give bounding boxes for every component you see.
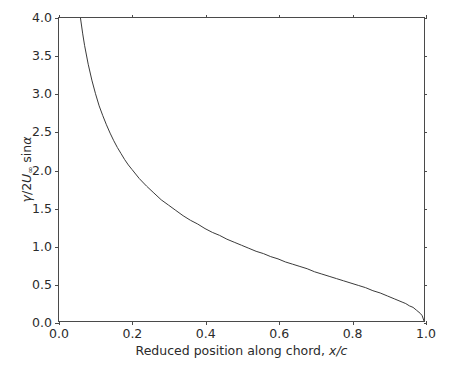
y-axis-sin-text: sin <box>19 145 34 167</box>
x-tick-label: 0.4 <box>196 328 216 341</box>
y-tick-mark-right <box>424 247 427 248</box>
x-tick-mark <box>59 321 60 325</box>
x-tick-label: 0.8 <box>343 328 363 341</box>
y-tick-mark-right <box>424 132 427 133</box>
x-tick-mark-top <box>353 15 354 18</box>
x-tick-mark-top <box>279 15 280 18</box>
x-tick-mark <box>279 321 280 325</box>
y-tick-mark-right <box>424 94 427 95</box>
y-axis-gamma-symbol: γ <box>19 195 34 202</box>
x-tick-label: 0.6 <box>269 328 289 341</box>
y-tick-mark-right <box>424 171 427 172</box>
x-tick-label: 1.0 <box>416 328 436 341</box>
y-tick-mark <box>55 285 59 286</box>
y-tick-mark <box>55 56 59 57</box>
x-tick-label: 0.2 <box>122 328 142 341</box>
y-tick-mark <box>55 209 59 210</box>
gamma-distribution-curve <box>80 18 424 321</box>
y-tick-mark <box>55 94 59 95</box>
y-tick-mark-right <box>424 209 427 210</box>
x-tick-mark <box>206 321 207 325</box>
y-tick-mark-right <box>424 285 427 286</box>
y-tick-mark-right <box>424 56 427 57</box>
y-axis-title: γ/2U∞ sinα <box>18 17 36 322</box>
x-tick-mark-top <box>206 15 207 18</box>
y-axis-slash-two: /2 <box>19 183 34 195</box>
x-tick-mark <box>353 321 354 325</box>
x-axis-title-math: x/c <box>329 343 347 358</box>
x-axis-title: Reduced position along chord, x/c <box>58 345 425 358</box>
y-tick-mark <box>55 132 59 133</box>
y-tick-mark-right <box>424 18 427 19</box>
plot-axes-frame: 0.00.51.01.52.02.53.03.54.00.00.20.40.60… <box>58 17 425 322</box>
chart-figure: 0.00.51.01.52.02.53.03.54.00.00.20.40.60… <box>0 0 458 372</box>
y-tick-mark <box>55 18 59 19</box>
y-tick-mark <box>55 247 59 248</box>
x-axis-title-text: Reduced position along chord, <box>136 343 329 358</box>
x-tick-mark-top <box>59 15 60 18</box>
y-axis-alpha-symbol: α <box>19 137 34 145</box>
y-axis-velocity-symbol: U <box>19 174 34 183</box>
x-tick-mark <box>132 321 133 325</box>
x-tick-mark-top <box>132 15 133 18</box>
curve-plot-area <box>59 18 424 321</box>
x-tick-label: 0.0 <box>49 328 69 341</box>
x-tick-mark-top <box>426 15 427 18</box>
y-axis-infinity-subscript: ∞ <box>25 167 35 174</box>
x-tick-mark <box>426 321 427 325</box>
y-tick-mark <box>55 171 59 172</box>
